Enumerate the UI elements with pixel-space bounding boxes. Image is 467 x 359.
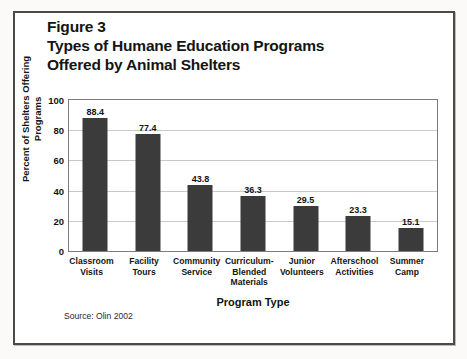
bar[interactable] [188, 185, 213, 251]
x-axis-tick-label-line: Junior [272, 256, 332, 267]
x-axis-title: Program Type [68, 296, 438, 308]
x-axis-tick-label: CommunityService [167, 256, 227, 277]
bar-value-label: 43.8 [192, 174, 210, 184]
bar[interactable] [240, 196, 265, 251]
bar-slot: 88.4 [69, 100, 122, 251]
x-axis-tick-label-line: Summer [377, 256, 437, 267]
x-axis-tick-label-line: Community [167, 256, 227, 267]
figure-screenshot: Figure 3 Types of Humane Education Progr… [0, 0, 467, 359]
x-axis-tick-label-line: Curriculum- [219, 256, 279, 267]
bar-slot: 36.3 [227, 100, 280, 251]
x-axis-tick-label-line: Blended [219, 267, 279, 278]
y-axis-tick-label: 80 [34, 125, 64, 136]
x-axis-tick-label: ClassroomVisits [62, 256, 122, 277]
bar-value-label: 23.3 [349, 205, 367, 215]
x-axis-tick-label-line: Camp [377, 267, 437, 278]
x-axis-tick-label-line: Materials [219, 277, 279, 288]
y-axis-tick-label: 20 [34, 215, 64, 226]
bar-chart: Percent of Shelters Offering Programs 02… [0, 0, 442, 334]
x-axis-tick-label-line: Activities [324, 267, 384, 278]
x-axis-tick-label: JuniorVolunteers [272, 256, 332, 277]
bar-slot: 15.1 [384, 100, 437, 251]
y-axis-tick-label: 100 [34, 95, 64, 106]
bars-layer: 88.477.443.836.329.523.315.1 [69, 100, 437, 251]
x-axis-tick-label: SummerCamp [377, 256, 437, 277]
bar[interactable] [346, 216, 371, 251]
bar-value-label: 15.1 [402, 217, 420, 227]
bar-slot: 29.5 [279, 100, 332, 251]
x-axis-tick-label-line: Tours [114, 267, 174, 278]
bar-slot: 77.4 [122, 100, 175, 251]
x-axis-tick-label: FacilityTours [114, 256, 174, 277]
x-axis-tick-label-line: Classroom [62, 256, 122, 267]
bar[interactable] [293, 206, 318, 251]
y-axis-tick-label: 60 [34, 155, 64, 166]
x-axis-tick-label: AfterschoolActivities [324, 256, 384, 277]
bar-value-label: 77.4 [139, 123, 157, 133]
bar[interactable] [398, 228, 423, 251]
bar-value-label: 36.3 [244, 185, 262, 195]
x-axis-tick-label: Curriculum-BlendedMaterials [219, 256, 279, 288]
bar-value-label: 29.5 [297, 195, 315, 205]
x-axis-tick-label-line: Afterschool [324, 256, 384, 267]
bar-slot: 23.3 [332, 100, 385, 251]
bar-value-label: 88.4 [86, 107, 104, 117]
x-axis-tick-label-line: Service [167, 267, 227, 278]
bar[interactable] [83, 118, 108, 251]
source-note: Source: Olin 2002 [64, 311, 133, 321]
y-axis-tick-label: 40 [34, 185, 64, 196]
y-axis-tick-label: 0 [34, 246, 64, 257]
x-axis-tick-label-line: Visits [62, 267, 122, 278]
x-axis-tick-label-line: Volunteers [272, 267, 332, 278]
bar-slot: 43.8 [174, 100, 227, 251]
y-axis-ticks: 020406080100 [30, 99, 64, 252]
bar[interactable] [135, 134, 160, 251]
x-axis-tick-label-line: Facility [114, 256, 174, 267]
